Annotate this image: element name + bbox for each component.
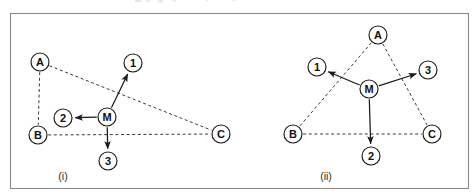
captions-layer: (i)(ii) [58,170,332,182]
panel-ii-caption: (ii) [320,170,332,182]
panel-ii-edge-M-N3 [379,74,417,86]
panel-i-node-N3: 3 [99,152,117,170]
panel-ii-node-N2: 2 [362,147,380,165]
panel-ii-node-M-label: M [364,83,373,95]
diagram-svg: ABCM123ABCM123 (i)(ii) [0,0,476,196]
panel-i-node-C: C [212,125,230,143]
panel-i-node-N2: 2 [54,109,72,127]
panel-i-node-A: A [31,53,49,71]
panel-ii-edge-M-N2 [369,99,370,144]
panel-ii-node-N3-label: 3 [425,64,431,76]
panel-ii-node-A: A [369,26,387,44]
panel-i-edge-A-B [38,72,39,125]
nodes-layer: ABCM123ABCM123 [29,26,441,170]
panel-ii-edge-M-N1 [328,72,359,85]
panel-i-node-B-label: B [34,129,42,141]
panel-ii-edge-A-C [383,44,427,125]
panel-i-node-C-label: C [217,128,225,140]
panel-i-node-N1: 1 [124,54,142,72]
panel-ii-node-A-label: A [374,29,382,41]
panel-i-node-N1-label: 1 [130,57,136,69]
panel-i-node-B: B [29,126,47,144]
panel-ii-node-M: M [360,80,378,98]
figure-canvas: ABCM123ABCM123 (i)(ii) [0,0,476,196]
panel-i-node-M: M [98,108,116,126]
panel-ii-node-B-label: B [289,128,297,140]
panel-i-edge-A-C [49,66,211,130]
panel-i-node-N2-label: 2 [60,112,66,124]
panel-ii-node-N3: 3 [419,61,437,79]
figure-border [11,14,469,189]
panel-i-edge-B-C [48,134,211,135]
panel-ii-node-B: B [284,125,302,143]
panel-i-node-N3-label: 3 [105,155,111,167]
scan-artifact-top [135,0,236,2]
panel-ii-node-C-label: C [428,128,436,140]
panel-ii-node-N1: 1 [308,58,326,76]
panel-i-node-M-label: M [102,111,111,123]
panel-ii-node-C: C [423,125,441,143]
panel-i-node-A-label: A [36,56,44,68]
panel-ii-node-N1-label: 1 [314,61,320,73]
panel-i-caption: (i) [58,170,67,182]
panel-ii-node-N2-label: 2 [368,150,374,162]
